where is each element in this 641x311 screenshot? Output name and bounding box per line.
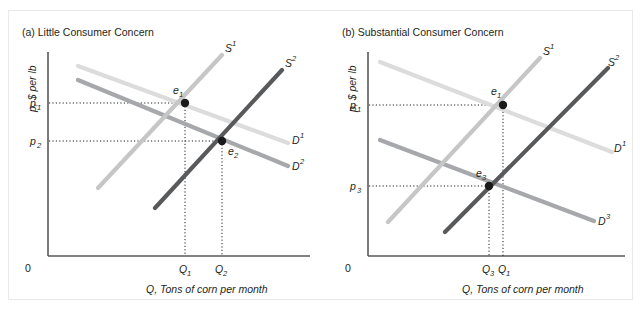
panel-b-demand-3-label: D 3 xyxy=(598,212,611,227)
svg-text:1: 1 xyxy=(232,39,236,48)
svg-text:S: S xyxy=(608,56,615,68)
svg-text:D: D xyxy=(292,160,300,172)
panel-a: (a) Little Consumer Concern p, $ per lb … xyxy=(0,0,321,311)
panel-b-equilibrium-e-1-label: e 1 xyxy=(491,85,501,100)
panel-b-title: (b) Substantial Consumer Concern xyxy=(342,26,504,38)
svg-text:S: S xyxy=(285,57,292,69)
panel-a-supply-1-curve xyxy=(98,55,222,188)
panel-b-supply-1-curve xyxy=(388,58,540,222)
panel-a-equilibrium-e-1-point xyxy=(181,99,189,107)
panel-a-title: (a) Little Consumer Concern xyxy=(22,26,154,38)
panel-a-equilibrium-e-2-point xyxy=(218,137,226,145)
svg-text:p: p xyxy=(349,99,356,111)
svg-text:2: 2 xyxy=(36,141,42,150)
svg-text:1: 1 xyxy=(179,90,183,99)
svg-text:D: D xyxy=(614,142,622,154)
svg-text:p: p xyxy=(349,180,356,192)
svg-text:2: 2 xyxy=(614,53,620,62)
panel-a-supply-1-label: S 1 xyxy=(225,39,236,54)
svg-text:2: 2 xyxy=(222,269,228,278)
svg-text:Q: Q xyxy=(215,263,223,275)
svg-text:3: 3 xyxy=(357,186,362,195)
svg-text:1: 1 xyxy=(506,269,510,278)
svg-text:D: D xyxy=(598,215,606,227)
panel-a-price-tick-p-2: p 2 xyxy=(29,135,42,150)
panel-b-demand-1-label: D 1 xyxy=(614,139,626,154)
panel-a-quantity-tick-Q-1: Q 1 xyxy=(179,263,191,278)
panel-b-equilibrium-e-3-point xyxy=(485,182,493,190)
svg-text:1: 1 xyxy=(300,131,304,140)
panel-a-demand-2-label: D 2 xyxy=(292,157,305,172)
svg-text:2: 2 xyxy=(291,54,297,63)
svg-text:1: 1 xyxy=(357,105,361,114)
svg-text:1: 1 xyxy=(497,91,501,100)
panel-a-origin-label: 0 xyxy=(25,262,31,274)
panel-b: (b) Substantial Consumer Concern p, $ pe… xyxy=(320,0,641,311)
figure-container: (a) Little Consumer Concern p, $ per lb … xyxy=(0,0,641,311)
panel-b-supply-1-label: S 1 xyxy=(543,42,554,57)
svg-text:2: 2 xyxy=(233,151,239,160)
panel-a-demand-1-label: D 1 xyxy=(292,131,304,146)
svg-text:2: 2 xyxy=(299,157,305,166)
svg-text:S: S xyxy=(225,42,232,54)
svg-text:p: p xyxy=(29,97,36,109)
svg-text:Q: Q xyxy=(498,263,506,275)
panel-a-quantity-tick-Q-2: Q 2 xyxy=(215,263,228,278)
panel-a-equilibrium-e-1-label: e 1 xyxy=(173,84,183,99)
panel-b-price-tick-p-3: p 3 xyxy=(349,180,362,195)
panel-b-supply-2-curve xyxy=(445,68,608,232)
svg-text:1: 1 xyxy=(187,269,191,278)
panel-a-x-axis-label: Q, Tons of corn per month xyxy=(146,283,268,295)
panel-b-demand-3-curve xyxy=(380,140,594,221)
svg-text:D: D xyxy=(292,134,300,146)
panel-b-supply-2-label: S 2 xyxy=(608,53,620,68)
svg-text:S: S xyxy=(543,45,550,57)
svg-text:p: p xyxy=(29,135,36,147)
panel-b-quantity-tick-Q-3: Q 3 xyxy=(482,263,495,278)
panel-b-equilibrium-e-3-label: e 3 xyxy=(476,167,487,182)
svg-text:3: 3 xyxy=(606,212,611,221)
svg-text:1: 1 xyxy=(550,42,554,51)
svg-text:1: 1 xyxy=(622,139,626,148)
panel-b-equilibrium-e-1-point xyxy=(499,101,507,109)
panel-b-x-axis-label: Q, Tons of corn per month xyxy=(462,283,584,295)
panel-b-quantity-tick-Q-1: Q 1 xyxy=(498,263,510,278)
svg-text:Q: Q xyxy=(482,263,490,275)
svg-text:1: 1 xyxy=(37,103,41,112)
panel-b-origin-label: 0 xyxy=(345,262,351,274)
svg-text:Q: Q xyxy=(179,263,187,275)
panel-a-supply-2-label: S 2 xyxy=(285,54,297,69)
svg-text:3: 3 xyxy=(490,269,495,278)
